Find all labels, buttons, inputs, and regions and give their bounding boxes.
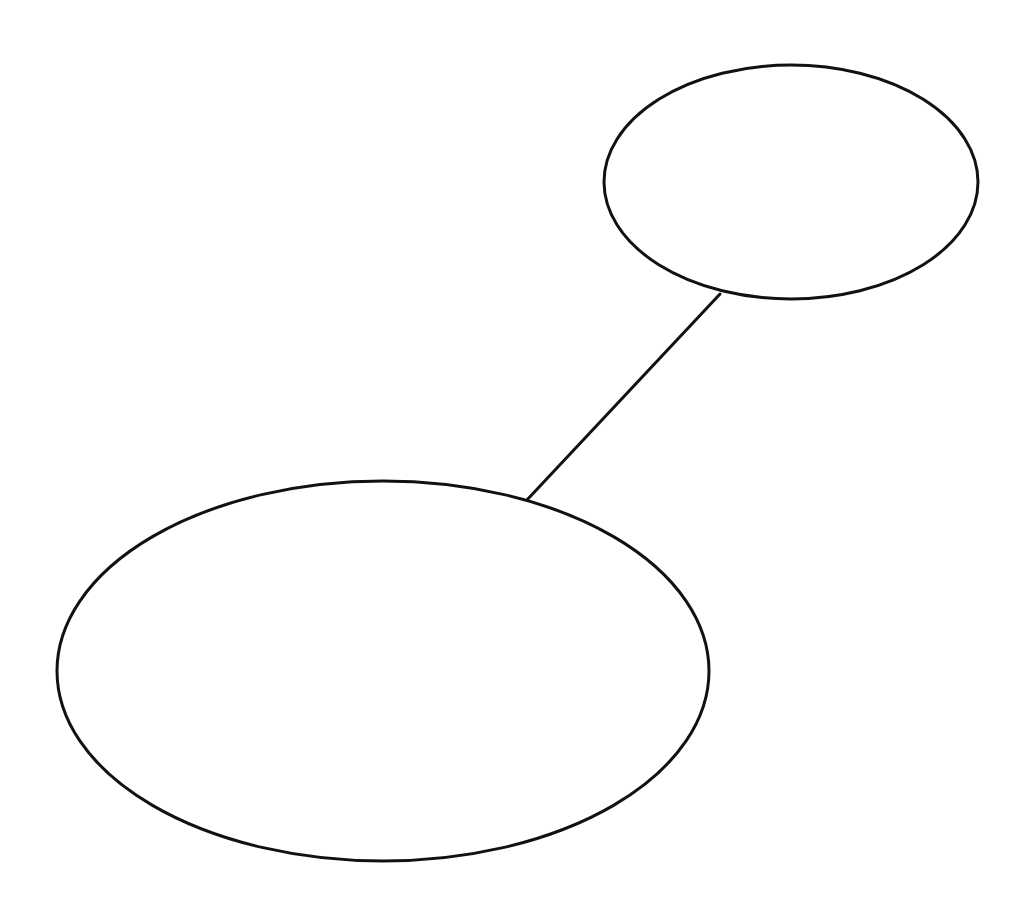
ellipse-node-bottom-left [57,481,709,861]
ellipse-node-top-right [604,65,978,299]
diagram-canvas [0,0,1028,908]
